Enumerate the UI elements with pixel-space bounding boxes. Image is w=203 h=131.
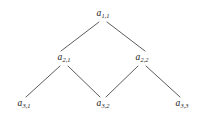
node-subscript: 2,1	[62, 56, 70, 63]
lattice-edge	[26, 66, 60, 97]
node-label-a-2-1: a2,1	[58, 53, 71, 63]
node-label-a-2-2: a2,2	[136, 53, 149, 63]
node-label-a-3-1: a3,1	[18, 99, 31, 109]
node-subscript: 3,2	[101, 102, 109, 109]
node-label-a-3-2: a3,2	[97, 99, 110, 109]
node-label-a-1-1: a1,1	[97, 9, 110, 19]
node-subscript: 1,1	[101, 12, 109, 19]
node-subscript: 3,1	[22, 102, 30, 109]
node-label-a-3-3: a3,3	[176, 99, 189, 109]
lattice-edge	[68, 66, 100, 97]
lattice-diagram: a1,1a2,1a2,2a3,1a3,2a3,3	[0, 0, 203, 131]
edge-layer	[0, 0, 203, 131]
lattice-edge	[106, 66, 138, 97]
lattice-edge	[146, 66, 180, 97]
node-subscript: 2,2	[140, 56, 148, 63]
lattice-edge	[61, 22, 99, 51]
lattice-edge	[107, 22, 145, 51]
node-subscript: 3,3	[180, 102, 188, 109]
